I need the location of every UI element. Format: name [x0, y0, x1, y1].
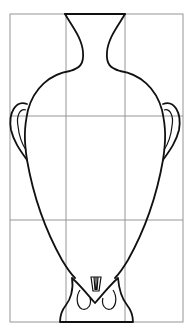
vase-foot-left-scroll	[77, 290, 90, 309]
vase-right-contour	[107, 14, 165, 278]
vase-outline	[10, 14, 179, 322]
vase-palmette	[91, 277, 101, 291]
vase-left-contour	[25, 14, 83, 278]
grid-frame	[10, 14, 183, 322]
amphora-diagram	[0, 0, 194, 336]
proportion-grid	[10, 14, 183, 322]
